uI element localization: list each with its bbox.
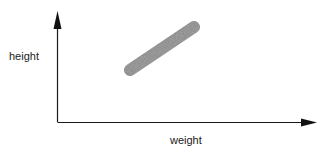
y-axis-arrowhead-icon: [54, 11, 62, 29]
x-axis-arrowhead-icon: [301, 119, 317, 127]
y-axis-label: height: [9, 50, 39, 62]
x-axis-label: weight: [170, 134, 202, 146]
trend-band: [130, 27, 194, 70]
diagram-canvas: height weight: [0, 0, 323, 159]
axes-and-band: [0, 0, 323, 159]
